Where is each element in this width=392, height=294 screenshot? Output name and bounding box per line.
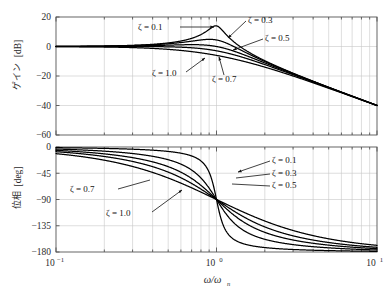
y-tick-label: 0 [46, 142, 51, 152]
svg-text:ω/ω: ω/ω [204, 274, 222, 285]
svg-text:10: 10 [45, 258, 55, 268]
bode-plot-figure: 200−20−40−60 0−45−90−135−18010−1100101 ゲ… [0, 0, 392, 294]
y-tick-label: −20 [36, 71, 51, 81]
y-tick-label: −135 [31, 221, 51, 231]
y-tick-label: 20 [42, 12, 52, 22]
svg-text:1: 1 [380, 256, 383, 263]
y-tick-label: −90 [36, 195, 51, 205]
svg-text:ゲイン: ゲイン [11, 63, 22, 90]
svg-text:[deg]: [deg] [13, 166, 23, 186]
svg-text:ζ = 0.1: ζ = 0.1 [272, 155, 297, 165]
svg-text:10: 10 [206, 258, 216, 268]
svg-text:ζ = 0.1: ζ = 0.1 [138, 22, 163, 32]
svg-text:ζ = 0.7: ζ = 0.7 [70, 184, 95, 194]
svg-text:ζ = 0.5: ζ = 0.5 [265, 33, 290, 43]
y-tick-label: −40 [36, 101, 51, 111]
svg-text:10: 10 [366, 258, 376, 268]
svg-text:ζ = 0.5: ζ = 0.5 [272, 180, 297, 190]
y-tick-label: −180 [31, 247, 51, 257]
svg-text:n: n [227, 280, 230, 287]
svg-text:ζ = 0.3: ζ = 0.3 [272, 168, 297, 178]
svg-text:−1: −1 [57, 256, 64, 263]
svg-text:ζ = 1.0: ζ = 1.0 [152, 68, 177, 78]
y-tick-label: −45 [36, 169, 51, 179]
svg-text:位相: 位相 [11, 191, 22, 209]
svg-text:0: 0 [219, 256, 223, 263]
svg-text:[dB]: [dB] [13, 40, 23, 57]
y-tick-label: −60 [36, 130, 51, 140]
gain-axis-label: ゲイン[dB] [11, 40, 23, 90]
y-tick-label: 0 [46, 42, 51, 52]
svg-text:ζ = 0.7: ζ = 0.7 [212, 74, 237, 84]
svg-text:ζ = 1.0: ζ = 1.0 [106, 208, 131, 218]
phase-axis-label: 位相[deg] [11, 166, 23, 208]
svg-text:ζ = 0.3: ζ = 0.3 [248, 15, 273, 25]
